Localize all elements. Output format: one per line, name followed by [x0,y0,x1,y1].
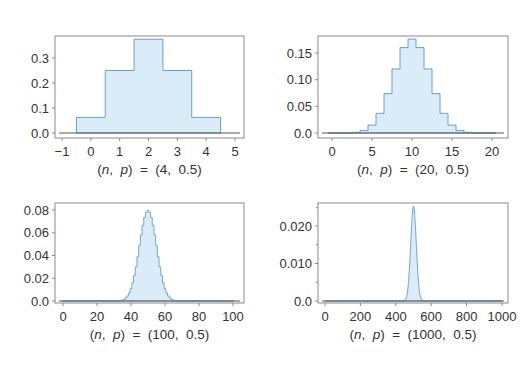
y-tick-label: 0.020 [279,219,312,234]
y-tick-label: 0.2 [31,76,49,91]
chart-caption: (n, p) = (100, 0.5) [90,327,210,342]
y-tick-label: 0.0 [31,126,49,141]
y-tick-label: 0.3 [31,51,49,66]
x-tick-label: 10 [405,144,419,159]
x-tick-label: 60 [158,309,172,324]
y-tick-label: 0.06 [24,225,49,240]
x-tick-label: −1 [55,144,70,159]
chart-binom-20: 051015200.00.050.100.15(n, p) = (20, 0.5… [287,36,508,177]
chart-caption: (n, p) = (20, 0.5) [357,162,469,177]
y-tick-label: 0.08 [24,203,49,218]
x-tick-label: 0 [87,144,94,159]
y-tick-label: 0.10 [287,72,312,87]
figure-canvas: −10123450.00.10.20.3(n, p) = (4, 0.5) 05… [0,0,529,379]
chart-binom-100: 0204060801000.00.020.040.060.08(n, p) = … [24,203,244,342]
y-tick-label: 0.0 [294,126,312,141]
x-tick-label: 5 [231,144,238,159]
x-tick-label: 100 [222,309,244,324]
y-tick-label: 0.05 [287,99,312,114]
x-tick-label: 600 [420,309,442,324]
y-tick-label: 0.02 [24,271,49,286]
x-tick-label: 15 [445,144,459,159]
histogram-bars [62,211,234,301]
x-tick-label: 5 [368,144,375,159]
x-tick-label: 400 [385,309,407,324]
y-tick-label: 0.1 [31,101,49,116]
x-tick-label: 0 [321,309,328,324]
x-tick-label: 2 [145,144,152,159]
histogram-bars [325,206,502,301]
x-tick-label: 800 [456,309,478,324]
y-tick-label: 0.15 [287,46,312,61]
x-tick-label: 80 [192,309,206,324]
y-tick-label: 0.0 [294,294,312,309]
y-tick-label: 0.04 [24,248,49,263]
binomial-distribution-figure: −10123450.00.10.20.3(n, p) = (4, 0.5) 05… [0,0,529,379]
chart-caption: (n, p) = (1000, 0.5) [349,327,476,342]
x-tick-label: 1 [116,144,123,159]
x-tick-label: 1000 [488,309,517,324]
x-tick-label: 200 [350,309,372,324]
x-tick-label: 4 [203,144,210,159]
x-tick-label: 0 [328,144,335,159]
chart-caption: (n, p) = (4, 0.5) [97,162,202,177]
x-tick-label: 40 [124,309,138,324]
chart-binom-4: −10123450.00.10.20.3(n, p) = (4, 0.5) [31,36,244,177]
histogram-bars [76,39,220,133]
y-tick-label: 0.0 [31,294,49,309]
x-tick-label: 20 [90,309,104,324]
x-tick-label: 20 [485,144,499,159]
chart-binom-1000: 020040060080010000.00.0100.020(n, p) = (… [279,203,516,342]
histogram-bars [328,39,496,133]
y-tick-label: 0.010 [279,256,312,271]
x-tick-label: 3 [174,144,181,159]
x-tick-label: 0 [59,309,66,324]
